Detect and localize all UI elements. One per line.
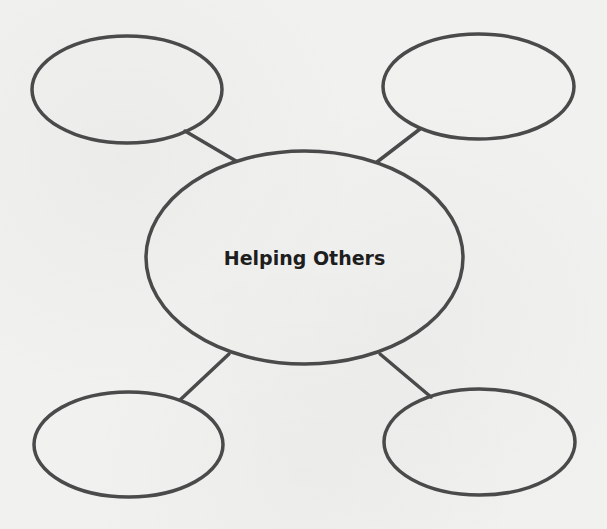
branch-label-top-right[interactable] xyxy=(383,34,574,139)
worksheet-page: Helping Others xyxy=(0,0,607,529)
branch-label-bottom-left[interactable] xyxy=(34,392,223,497)
center-topic-label: Helping Others xyxy=(146,151,463,364)
branch-label-top-left[interactable] xyxy=(32,36,222,143)
branch-label-bottom-right[interactable] xyxy=(384,389,575,495)
